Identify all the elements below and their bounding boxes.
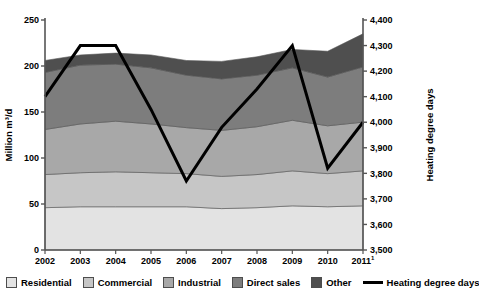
- x-axis-tick-label: 2006: [176, 256, 196, 266]
- legend-color-swatch: [83, 277, 94, 288]
- right-axis-tick-label: 4,100: [370, 92, 393, 102]
- legend-item-residential[interactable]: Residential: [6, 277, 72, 288]
- x-axis-tick-label: 2008: [247, 256, 267, 266]
- legend-item-label: Residential: [21, 277, 72, 288]
- right-axis-tick-label: 4,400: [370, 15, 393, 25]
- right-axis-tick-label: 3,500: [370, 245, 393, 255]
- legend-item-commercial[interactable]: Commercial: [83, 277, 152, 288]
- x-axis-tick-label: 2005: [141, 256, 161, 266]
- left-axis-tick-label: 150: [24, 107, 39, 117]
- x-axis-tick-label: 2009: [282, 256, 302, 266]
- area-band-group: [45, 34, 363, 250]
- x-axis-label-footnote-marker: 1: [371, 255, 375, 261]
- legend-item-other[interactable]: Other: [311, 277, 351, 288]
- x-axis-tick-label: 2003: [70, 256, 90, 266]
- area-band-residential: [45, 206, 363, 250]
- legend-item-industrial[interactable]: Industrial: [163, 277, 221, 288]
- x-axis-tick-label: 2007: [212, 256, 232, 266]
- left-axis-tick-label: 250: [24, 15, 39, 25]
- right-axis-tick-label: 4,300: [370, 41, 393, 51]
- right-axis-tick-label: 4,200: [370, 66, 393, 76]
- legend-item-label: Heating degree days: [387, 277, 479, 288]
- legend-line-marker: [363, 281, 383, 284]
- left-axis-tick-label: 200: [24, 61, 39, 71]
- left-axis-tick-label: 0: [34, 245, 39, 255]
- legend-color-swatch: [232, 277, 243, 288]
- legend-item-label: Direct sales: [247, 277, 300, 288]
- area-band-commercial: [45, 171, 363, 209]
- legend-color-swatch: [163, 277, 174, 288]
- legend-item-label: Industrial: [178, 277, 221, 288]
- x-axis-tick-label: 2002: [35, 256, 55, 266]
- x-axis-tick-label: 20111: [352, 255, 376, 266]
- legend-color-swatch: [311, 277, 322, 288]
- right-axis-tick-label: 3,900: [370, 143, 393, 153]
- left-axis: 050100150200250: [24, 15, 45, 255]
- stacked-area-chart: 050100150200250 3,5003,6003,7003,8003,90…: [0, 0, 443, 268]
- right-axis-tick-label: 4,000: [370, 117, 393, 127]
- right-axis-tick-label: 3,600: [370, 220, 393, 230]
- right-axis-tick-label: 3,800: [370, 169, 393, 179]
- left-axis-tick-label: 100: [24, 153, 39, 163]
- legend-item-direct-sales[interactable]: Direct sales: [232, 277, 300, 288]
- x-axis-tick-label: 2004: [106, 256, 126, 266]
- chart-legend: ResidentialCommercialIndustrialDirect sa…: [0, 272, 443, 292]
- right-axis: 3,5003,6003,7003,8003,9004,0004,1004,200…: [363, 15, 393, 255]
- right-axis-title: Heating degree days: [424, 89, 435, 182]
- left-axis-title: Million m³/d: [3, 108, 14, 161]
- legend-item-label: Commercial: [98, 277, 152, 288]
- legend-color-swatch: [6, 277, 17, 288]
- bottom-axis: 2002200320042005200620072008200920102011…: [35, 250, 375, 266]
- x-axis-tick-label: 2010: [318, 256, 338, 266]
- legend-item-label: Other: [326, 277, 351, 288]
- right-axis-tick-label: 3,700: [370, 194, 393, 204]
- legend-item-heating-degree-days[interactable]: Heating degree days: [363, 277, 479, 288]
- left-axis-tick-label: 50: [29, 199, 39, 209]
